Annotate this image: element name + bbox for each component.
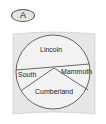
- slice-label-lincoln: Lincoln: [40, 46, 62, 53]
- pie-chart-panel: Lincoln South Mammoth Cumberland: [11, 30, 97, 116]
- slice-label-south: South: [18, 71, 36, 78]
- pie-chart: Lincoln South Mammoth Cumberland: [11, 30, 97, 116]
- slice-label-mammoth: Mammoth: [61, 68, 92, 75]
- slice-label-cumberland: Cumberland: [35, 88, 73, 95]
- panel-label-badge: A: [11, 9, 35, 22]
